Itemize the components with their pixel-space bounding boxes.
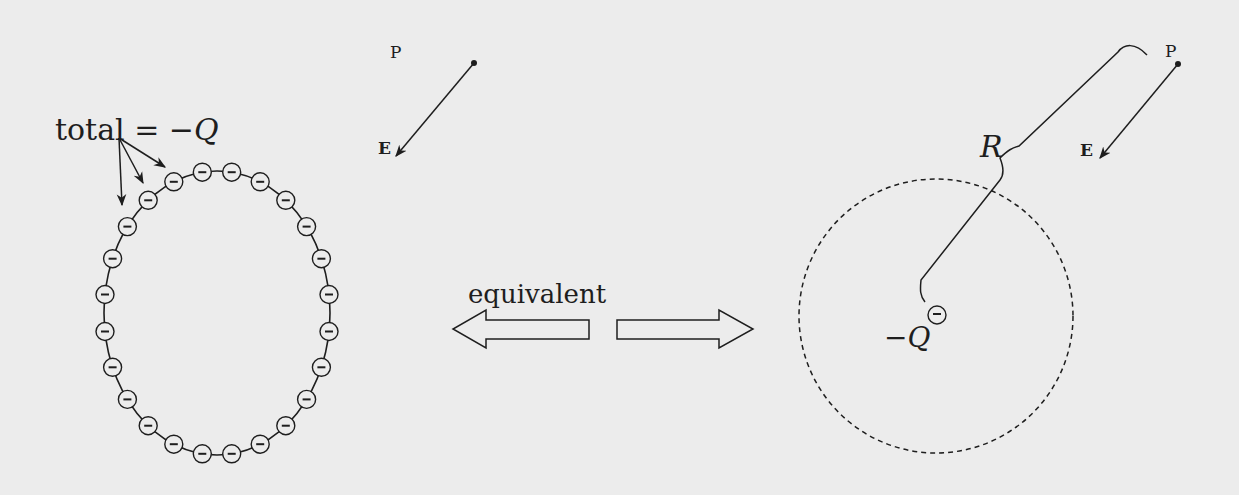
- surface-charge: [223, 163, 241, 181]
- surface-charge: [96, 286, 114, 304]
- right-hollow-arrow: [617, 310, 753, 348]
- annotation-arrow-1: [119, 138, 122, 205]
- surface-charge: [251, 435, 269, 453]
- surface-charge: [139, 417, 157, 435]
- equivalence-arrows: [453, 310, 753, 348]
- total-charge-label: total = −Q: [55, 112, 219, 147]
- surface-charge: [298, 218, 316, 236]
- surface-charge: [96, 323, 114, 341]
- diagram-stage: total = −Q P E equivalent −Q R P E: [0, 0, 1239, 495]
- right-e-label: E: [1080, 140, 1093, 160]
- right-e-field-arrow: [1100, 64, 1178, 158]
- surface-charge: [118, 390, 136, 408]
- right-point-p-label: P: [1165, 41, 1176, 61]
- distance-brace: [920, 46, 1147, 302]
- surface-charge: [312, 250, 330, 268]
- surface-charge: [298, 390, 316, 408]
- right-field-point-group: P E: [1080, 41, 1181, 160]
- surface-charge: [104, 358, 122, 376]
- surface-charge: [193, 445, 211, 463]
- surface-charge: [104, 250, 122, 268]
- surface-charge: [277, 191, 295, 209]
- left-field-point-group: P E: [378, 42, 477, 158]
- equivalent-label: equivalent: [468, 279, 607, 309]
- diagram-canvas: total = −Q P E equivalent −Q R P E: [0, 0, 1239, 495]
- surface-charges: [96, 163, 338, 463]
- charged-ring-group: [96, 163, 338, 463]
- surface-charge: [139, 191, 157, 209]
- surface-charge: [165, 173, 183, 191]
- gaussian-sphere-dashed: [799, 179, 1073, 453]
- surface-charge: [312, 358, 330, 376]
- left-e-field-arrow: [396, 63, 474, 156]
- point-charge-group: −Q: [884, 306, 946, 354]
- surface-charge: [320, 323, 338, 341]
- surface-charge: [193, 163, 211, 181]
- surface-charge: [118, 218, 136, 236]
- surface-charge: [251, 173, 269, 191]
- left-hollow-arrow: [453, 310, 589, 348]
- left-e-label: E: [378, 138, 391, 158]
- surface-charge: [320, 286, 338, 304]
- surface-charge: [223, 445, 241, 463]
- surface-charge: [277, 417, 295, 435]
- left-point-p-label: P: [390, 42, 401, 62]
- ring-outline: [104, 171, 330, 455]
- point-charge-label: −Q: [884, 321, 930, 354]
- distance-r-label: R: [979, 129, 1003, 164]
- surface-charge: [165, 435, 183, 453]
